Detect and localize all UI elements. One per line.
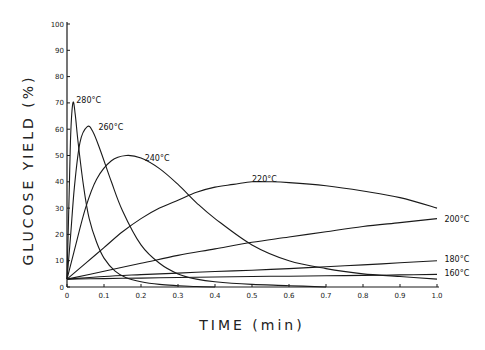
x-tick-label: 1.0 bbox=[431, 292, 442, 300]
curve-280c bbox=[67, 102, 215, 287]
curve-label: 240°C bbox=[145, 154, 170, 163]
axes: 00.10.20.30.40.50.60.70.80.91.0010203040… bbox=[51, 21, 443, 301]
x-tick-label: 0.4 bbox=[209, 292, 221, 300]
curve-labels: 280°C260°C240°C220°C200°C180°C160°C bbox=[76, 96, 469, 277]
x-tick-label: 0.5 bbox=[246, 292, 257, 300]
y-tick-label: 100 bbox=[51, 21, 64, 29]
y-tick-label: 40 bbox=[55, 178, 64, 186]
y-tick-label: 90 bbox=[55, 47, 64, 55]
x-tick-label: 0.8 bbox=[357, 292, 368, 300]
y-tick-label: 30 bbox=[55, 205, 64, 213]
y-tick-label: 0 bbox=[60, 284, 64, 292]
x-axis-title: TIME (min) bbox=[198, 317, 304, 333]
curve-label: 200°C bbox=[444, 215, 469, 224]
x-tick-label: 0.7 bbox=[320, 292, 331, 300]
glucose-yield-chart: 00.10.20.30.40.50.60.70.80.91.0010203040… bbox=[0, 0, 485, 350]
x-tick-label: 0.3 bbox=[172, 292, 183, 300]
y-tick-label: 50 bbox=[55, 152, 64, 160]
y-tick-label: 80 bbox=[55, 73, 64, 81]
x-tick-label: 0 bbox=[65, 292, 69, 300]
curve-label: 280°C bbox=[76, 96, 101, 105]
curve-220c bbox=[67, 182, 437, 280]
y-tick-label: 70 bbox=[55, 99, 64, 107]
curve-label: 260°C bbox=[98, 123, 123, 132]
y-axis-title: GLUCOSE YIELD (%) bbox=[20, 75, 36, 266]
curve-240c bbox=[67, 155, 437, 279]
x-tick-label: 0.1 bbox=[98, 292, 109, 300]
curve-label: 160°C bbox=[444, 269, 469, 278]
y-tick-label: 20 bbox=[55, 231, 64, 239]
curve-label: 220°C bbox=[252, 175, 277, 184]
y-tick-label: 10 bbox=[55, 257, 64, 265]
y-tick-label: 60 bbox=[55, 126, 64, 134]
curve-260c bbox=[67, 126, 326, 287]
curve-label: 180°C bbox=[444, 255, 469, 264]
x-tick-label: 0.9 bbox=[394, 292, 405, 300]
x-tick-label: 0.2 bbox=[135, 292, 146, 300]
x-tick-label: 0.6 bbox=[283, 292, 295, 300]
